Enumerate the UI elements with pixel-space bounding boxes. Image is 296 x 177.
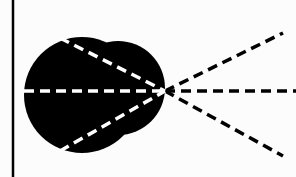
outer-dashed-rays [165,33,296,156]
ray-outer-lower [165,91,283,156]
diagram-canvas [0,0,296,177]
ray-outer-upper [165,33,283,91]
